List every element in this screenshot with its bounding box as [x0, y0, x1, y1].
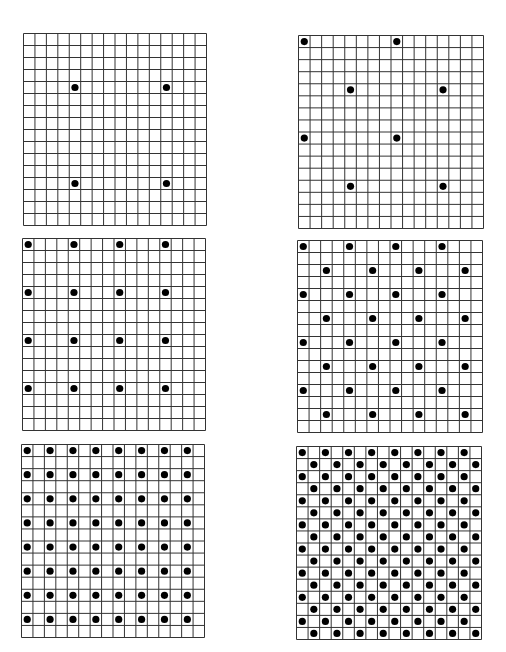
sample-dot [462, 411, 469, 418]
grid-panel-f [296, 446, 482, 640]
sample-dot [437, 449, 444, 456]
sample-dot [415, 315, 422, 322]
sample-dot [116, 241, 123, 248]
sample-dot [24, 592, 31, 599]
sample-dot [46, 616, 53, 623]
sample-dot [115, 616, 122, 623]
sample-dot [345, 473, 352, 480]
sample-dot [46, 568, 53, 575]
sample-dot [115, 543, 122, 550]
sample-dot [301, 134, 308, 141]
sample-dot [438, 387, 445, 394]
sample-dot [369, 411, 376, 418]
sample-dot [162, 289, 169, 296]
grid-d-svg [297, 240, 483, 433]
sample-dot [161, 616, 168, 623]
sample-dot [380, 509, 387, 516]
sample-dot [115, 519, 122, 526]
sample-dot [69, 471, 76, 478]
sample-dot [415, 411, 422, 418]
grid-panel-a [23, 33, 207, 226]
sample-dot [391, 594, 398, 601]
sample-dot [322, 570, 329, 577]
sample-dot [184, 447, 191, 454]
sample-dot [24, 519, 31, 526]
sample-dot [25, 241, 32, 248]
sample-dot [46, 471, 53, 478]
sample-dot [161, 471, 168, 478]
grid-f-svg [296, 446, 482, 640]
sample-dot [92, 519, 99, 526]
sample-dot [69, 568, 76, 575]
sample-dot [426, 509, 433, 516]
sample-dot [333, 485, 340, 492]
sample-dot [92, 495, 99, 502]
sample-dot [472, 509, 479, 516]
sample-dot [115, 568, 122, 575]
sample-dot [310, 509, 317, 516]
sample-dot [184, 616, 191, 623]
sample-dot [391, 618, 398, 625]
sample-dot [449, 485, 456, 492]
sample-dot [322, 497, 329, 504]
sample-dot [301, 38, 308, 45]
sample-dot [345, 618, 352, 625]
sample-dot [391, 570, 398, 577]
sample-dot [368, 449, 375, 456]
sample-dot [299, 497, 306, 504]
sample-dot [70, 241, 77, 248]
sample-dot [368, 618, 375, 625]
sample-dot [333, 533, 340, 540]
sample-dot [333, 509, 340, 516]
sample-dot [369, 267, 376, 274]
sample-dot [356, 582, 363, 589]
sample-dot [461, 594, 468, 601]
sample-dot [403, 606, 410, 613]
sample-dot [461, 618, 468, 625]
sample-dot [368, 521, 375, 528]
sample-dot [138, 616, 145, 623]
sample-dot [116, 289, 123, 296]
sample-dot [462, 267, 469, 274]
sample-dot [472, 606, 479, 613]
sample-dot [70, 337, 77, 344]
sample-dot [69, 616, 76, 623]
sample-dot [391, 449, 398, 456]
sample-dot [138, 543, 145, 550]
sample-dot [449, 461, 456, 468]
grid-e-svg [21, 444, 205, 638]
sample-dot [414, 473, 421, 480]
sample-dot [449, 557, 456, 564]
sample-dot [322, 545, 329, 552]
sample-dot [437, 497, 444, 504]
sample-dot [184, 471, 191, 478]
sample-dot [310, 582, 317, 589]
sample-dot [449, 509, 456, 516]
sample-dot [380, 533, 387, 540]
sample-dot [161, 543, 168, 550]
sample-dot [161, 592, 168, 599]
sample-dot [462, 315, 469, 322]
sample-dot [414, 449, 421, 456]
sample-dot [472, 557, 479, 564]
sample-dot [333, 557, 340, 564]
sample-dot [162, 337, 169, 344]
sample-dot [299, 594, 306, 601]
sample-dot [115, 447, 122, 454]
sample-dot [69, 543, 76, 550]
sample-dot [346, 291, 353, 298]
sample-dot [346, 243, 353, 250]
sample-dot [438, 339, 445, 346]
sample-dot [323, 267, 330, 274]
sample-dot [369, 315, 376, 322]
sample-dot [163, 84, 170, 91]
sample-dot [449, 606, 456, 613]
grid-panel-e [21, 444, 205, 638]
sample-dot [116, 337, 123, 344]
sample-dot [391, 521, 398, 528]
sample-dot [461, 521, 468, 528]
sample-dot [415, 363, 422, 370]
sample-dot [310, 606, 317, 613]
sample-dot [70, 385, 77, 392]
sample-dot [299, 545, 306, 552]
